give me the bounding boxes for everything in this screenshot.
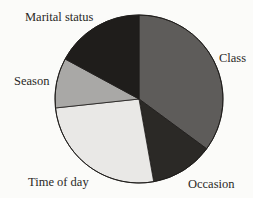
label-season: Season (14, 75, 49, 88)
pie-chart-graphic (0, 0, 253, 198)
slice-time-of-day (55, 99, 153, 183)
label-occasion: Occasion (188, 178, 235, 191)
pie-chart: Marital status Class Season Time of day … (0, 0, 253, 198)
label-time-of-day: Time of day (28, 176, 89, 189)
label-marital-status: Marital status (25, 11, 93, 24)
label-class: Class (219, 52, 246, 65)
